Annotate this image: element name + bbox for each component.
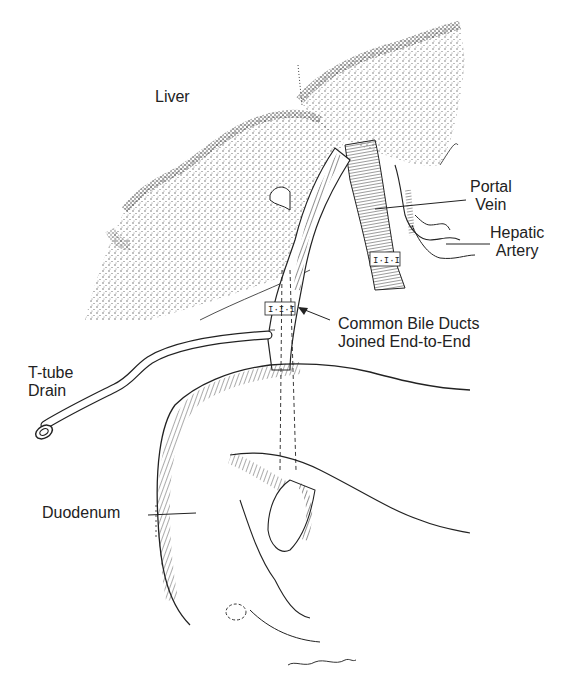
common-bile-ducts-label-line2: Joined End-to-End [338,333,479,351]
portal-vein: I·I·I [345,140,405,290]
portal-vein-leader [375,200,466,209]
common-bile-ducts-label-line1: Common Bile Ducts [338,315,479,333]
duodenum [157,364,470,642]
anatomy-illustration: I·I·I I·I·I [0,0,579,686]
svg-text:I·I·I: I·I·I [373,256,400,266]
liver-label: Liver [155,88,190,106]
hepatic-artery-label-line2: Artery [490,242,544,260]
illustration-canvas: I·I·I I·I·I [0,0,579,686]
portal-vein-label-line1: Portal [470,178,512,196]
duodenum-leader [148,513,196,515]
duodenum-label: Duodenum [42,504,120,522]
portal-vein-label-line2: Vein [470,196,512,214]
hepatic-artery-label-line1: Hepatic [490,224,544,242]
artist-signature [288,659,356,665]
t-tube-drain-label-line2: Drain [28,382,73,400]
hepatic-artery-label: Hepatic Artery [490,224,544,260]
t-tube-drain-label: T-tube Drain [28,364,73,400]
common-bile-ducts-label: Common Bile Ducts Joined End-to-End [338,315,479,351]
t-tube-drain-label-line1: T-tube [28,364,73,382]
portal-vein-label: Portal Vein [470,178,512,214]
